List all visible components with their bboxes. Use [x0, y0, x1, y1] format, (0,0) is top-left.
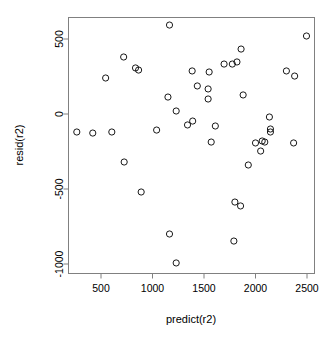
- x-tick-label: 1000: [141, 282, 165, 294]
- x-axis-title: predict(r2): [166, 313, 216, 325]
- x-tick-label: 2000: [244, 282, 268, 294]
- y-tick-label: -500: [53, 178, 65, 199]
- scatter-plot-figure: 5001000150020002500 5000-500-1000 predic…: [0, 0, 333, 344]
- x-tick-label: 500: [92, 282, 110, 294]
- y-tick-label: 500: [53, 30, 65, 48]
- chart-canvas: 5001000150020002500 5000-500-1000 predic…: [0, 0, 333, 344]
- x-tick-label: 1500: [192, 282, 216, 294]
- y-axis-title: resid(r2): [13, 125, 25, 166]
- figure-background: [0, 0, 333, 344]
- y-tick-label: -1000: [53, 250, 65, 277]
- x-tick-label: 2500: [295, 282, 319, 294]
- y-tick-label: 0: [53, 111, 65, 117]
